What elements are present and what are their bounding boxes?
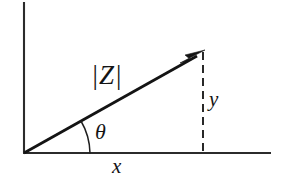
real-component-label: x <box>112 156 121 177</box>
magnitude-label: |Z| <box>91 62 122 89</box>
angle-arc <box>81 121 90 153</box>
phasor-diagram: |Z| θ x y <box>0 0 287 180</box>
diagram-canvas <box>0 0 287 180</box>
angle-label: θ <box>95 121 106 143</box>
phasor-arrowhead-icon <box>180 50 205 63</box>
imaginary-component-label: y <box>209 89 218 110</box>
